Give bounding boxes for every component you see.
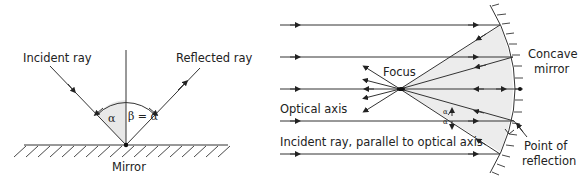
focus-point <box>397 87 405 91</box>
reflected-ray <box>126 68 200 145</box>
alpha-upper-label: α <box>443 108 448 116</box>
mirror-vertex-point <box>518 87 522 91</box>
mirror-hatching <box>14 146 230 157</box>
diagram-canvas: Incident ray Reflected ray α β = α Mirro… <box>0 0 584 183</box>
concave-label-line2: mirror <box>534 62 569 76</box>
incident-ray-arrow-icon <box>68 84 74 91</box>
concave-label-line1: Concave <box>528 47 578 61</box>
focus-label: Focus <box>383 65 416 79</box>
point-of-reflection-line2: reflection <box>522 154 576 168</box>
plane-mirror-diagram: Incident ray Reflected ray α β = α Mirro… <box>14 50 253 174</box>
point-of-reflection-line1: Point of <box>524 139 568 153</box>
incident-parallel-label: Incident ray, parallel to optical axis <box>280 135 483 149</box>
reflected-ray-label: Reflected ray <box>176 51 253 65</box>
reflection-diagram: Incident ray Reflected ray α β = α Mirro… <box>0 0 584 183</box>
concave-mirror-diagram: Focus Concave mirror Optical axis Incide… <box>280 4 578 175</box>
beta-equals-alpha-label: β = α <box>128 110 159 123</box>
reflected-ray-arrow-icon <box>178 82 186 90</box>
alpha-lower-label: α <box>443 118 448 126</box>
reflection-point <box>124 143 128 147</box>
incident-ray-label: Incident ray <box>23 51 92 65</box>
optical-axis-label: Optical axis <box>280 102 347 116</box>
alpha-label: α <box>108 112 116 125</box>
mirror-label: Mirror <box>112 160 146 174</box>
